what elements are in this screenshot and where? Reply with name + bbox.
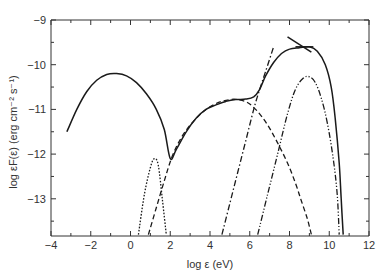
y-tick-label: −9	[33, 14, 46, 26]
y-tick-label: −12	[27, 148, 46, 160]
series-dashed	[148, 99, 311, 234]
y-tick-label: −10	[27, 59, 46, 71]
y-axis-title: log εF(ε) (erg cm⁻² s⁻¹)	[7, 75, 19, 188]
series-power-law-segment	[288, 37, 312, 52]
series-dash-dot-dot	[258, 76, 340, 234]
x-tick-label: −4	[45, 239, 58, 251]
x-tick-label: 2	[167, 239, 173, 251]
x-tick-label: 12	[363, 239, 375, 251]
plot-frame	[51, 20, 369, 236]
y-tick-label: −11	[28, 103, 46, 115]
x-tick-label: 8	[286, 239, 292, 251]
x-tick-label: 0	[127, 239, 133, 251]
curves	[67, 37, 343, 235]
y-tick-label: −13	[27, 193, 46, 205]
sed-chart: −4−2024681012−9−10−11−12−13 log ε (eV) l…	[0, 0, 381, 277]
axes: −4−2024681012−9−10−11−12−13	[27, 14, 375, 251]
x-tick-label: 6	[247, 239, 253, 251]
x-tick-label: −2	[84, 239, 97, 251]
x-tick-label: 10	[323, 239, 335, 251]
x-axis-title: log ε (eV)	[187, 258, 233, 270]
series-total	[67, 47, 343, 235]
x-tick-label: 4	[207, 239, 213, 251]
